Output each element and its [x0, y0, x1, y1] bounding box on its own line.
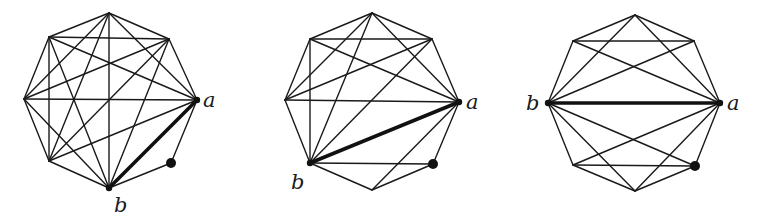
vertex-label-a: a — [466, 90, 479, 114]
edge-v5-v3 — [310, 163, 433, 164]
graph-2: ab — [285, 13, 479, 194]
edge-v1-v6 — [285, 39, 432, 100]
edge-v0-v6 — [24, 13, 109, 99]
edge-v0-v6 — [285, 13, 372, 100]
edge-v4-v2 — [372, 102, 459, 190]
edge-v0-v1 — [109, 13, 169, 39]
edge-v5-v6 — [24, 99, 49, 161]
edge-v2-v5 — [573, 103, 720, 165]
edge-v0-v6 — [548, 15, 635, 103]
vertex-label-b: b — [526, 91, 539, 115]
edge-v7-v0 — [573, 15, 635, 41]
edge-v4-v5 — [573, 165, 635, 191]
edge-v1-v6 — [24, 39, 169, 99]
edge-v1-v2 — [169, 39, 197, 100]
edge-v0-v2 — [635, 15, 720, 103]
vertex-a — [194, 97, 200, 103]
edge-v4-v5 — [310, 163, 372, 190]
dot-vertex — [166, 158, 176, 168]
graph-1: ab — [24, 13, 216, 217]
vertex-label-a: a — [727, 91, 740, 115]
edge-v1-v7 — [49, 37, 169, 39]
edge-v5-v6 — [285, 100, 310, 163]
vertex-label-b: b — [114, 193, 127, 217]
edge-v0-v5 — [49, 13, 109, 161]
edge-v0-v1 — [635, 15, 694, 41]
vertex-label-b: b — [291, 170, 304, 194]
edge-v1-v4 — [109, 39, 169, 188]
vertex-b — [307, 160, 313, 166]
vertex-b — [106, 185, 112, 191]
edge-v3-v4 — [372, 164, 433, 190]
edge-v2-v6 — [24, 99, 197, 100]
edge-v2-v7 — [49, 37, 197, 100]
edge-v0-v1 — [372, 13, 432, 39]
figure-canvas: ab ab ab — [0, 0, 766, 224]
dot-vertex — [428, 159, 438, 169]
vertex-a — [717, 100, 723, 106]
dot-vertex — [690, 161, 700, 171]
graph-3: ab — [526, 15, 740, 191]
edge-v0-v2 — [372, 13, 459, 102]
edge-v6-v4 — [548, 103, 635, 191]
edge-v5-v3 — [573, 165, 695, 166]
highlighted-edge-ab — [109, 100, 197, 188]
vertex-label-a: a — [203, 88, 216, 112]
vertex-a — [456, 99, 462, 105]
edge-v3-v4 — [635, 166, 695, 191]
vertex-b — [545, 100, 551, 106]
edge-v2-v4 — [635, 103, 720, 191]
